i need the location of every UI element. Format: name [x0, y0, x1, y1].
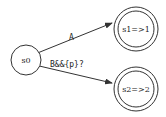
state-label-s1: s1=>1 [122, 25, 150, 34]
state-label-s0: s0 [21, 56, 30, 65]
state-diagram: A B&&{p}? s0 s1=>1 s2=>2 [0, 0, 166, 117]
state-s0[interactable]: s0 [11, 45, 41, 75]
state-s2[interactable]: s2=>2 [114, 67, 158, 111]
edge-s0-s2[interactable]: B&&{p}? [35, 60, 112, 83]
edge-label-b-p: B&&{p}? [50, 60, 84, 69]
state-s1[interactable]: s1=>1 [114, 7, 158, 51]
edge-s0-s1[interactable]: A [35, 23, 112, 54]
edge-label-a: A [69, 33, 74, 42]
state-label-s2: s2=>2 [122, 85, 150, 94]
